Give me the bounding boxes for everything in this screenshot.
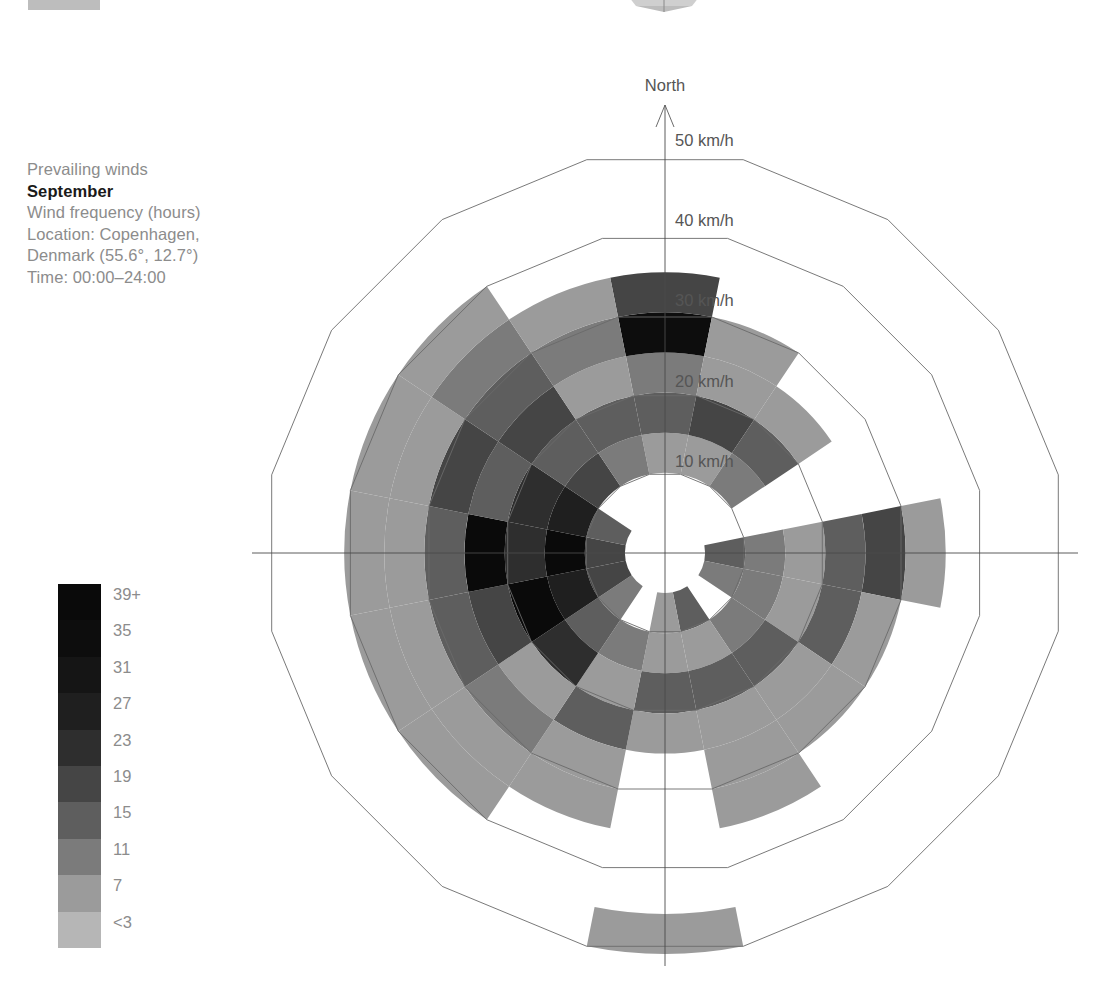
radial-tick-label-30: 30 km/h bbox=[675, 291, 734, 309]
north-label: North bbox=[645, 76, 685, 94]
wind-rose-chart: 10 km/h20 km/h30 km/h40 km/h50 km/hNorth bbox=[0, 0, 1106, 988]
radial-tick-label-50: 50 km/h bbox=[675, 131, 734, 149]
radial-tick-label-10: 10 km/h bbox=[675, 452, 734, 470]
radial-tick-label-40: 40 km/h bbox=[675, 211, 734, 229]
radial-tick-label-20: 20 km/h bbox=[675, 372, 734, 390]
